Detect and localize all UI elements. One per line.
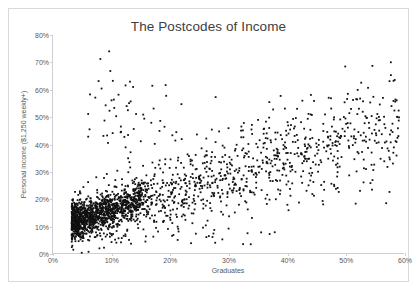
y-axis-tick-mark bbox=[50, 35, 53, 36]
y-axis-tick-mark bbox=[50, 199, 53, 200]
y-axis-title: Personal income ($1,250 weekly+) bbox=[18, 35, 30, 254]
x-axis-tick-mark bbox=[229, 253, 230, 256]
x-axis-tick-label: 20% bbox=[163, 257, 177, 264]
x-axis-tick-mark bbox=[53, 253, 54, 256]
y-axis-tick-mark bbox=[50, 172, 53, 173]
x-axis-tick-label: 50% bbox=[339, 257, 353, 264]
y-axis-tick-mark bbox=[50, 227, 53, 228]
y-axis-tick-label: 50% bbox=[35, 114, 49, 121]
y-axis-tick-mark bbox=[50, 62, 53, 63]
y-axis-tick-label: 70% bbox=[35, 59, 49, 66]
x-axis-tick-label: 0% bbox=[48, 257, 58, 264]
x-axis-tick-mark bbox=[288, 253, 289, 256]
x-axis-tick-mark bbox=[405, 253, 406, 256]
y-axis-tick-mark bbox=[50, 90, 53, 91]
plot-area: 0%10%20%30%40%50%60%70%80%0%10%20%30%40%… bbox=[52, 35, 404, 254]
x-axis-tick-label: 60% bbox=[398, 257, 412, 264]
y-axis-tick-label: 30% bbox=[35, 168, 49, 175]
x-axis-tick-mark bbox=[170, 253, 171, 256]
y-axis-tick-label: 40% bbox=[35, 141, 49, 148]
scatter-points bbox=[53, 35, 404, 253]
x-axis-tick-label: 40% bbox=[281, 257, 295, 264]
x-axis-tick-label: 30% bbox=[222, 257, 236, 264]
y-axis-tick-label: 20% bbox=[35, 196, 49, 203]
y-axis-tick-label: 10% bbox=[35, 223, 49, 230]
y-axis-tick-mark bbox=[50, 117, 53, 118]
x-axis-tick-mark bbox=[112, 253, 113, 256]
chart-title: The Postcodes of Income bbox=[9, 19, 408, 34]
chart-frame: The Postcodes of Income Personal income … bbox=[8, 8, 409, 282]
y-axis-tick-label: 60% bbox=[35, 86, 49, 93]
y-axis-tick-mark bbox=[50, 145, 53, 146]
x-axis-tick-mark bbox=[346, 253, 347, 256]
y-axis-title-label: Personal income ($1,250 weekly+) bbox=[21, 91, 28, 199]
y-axis-tick-label: 80% bbox=[35, 32, 49, 39]
x-axis-tick-label: 10% bbox=[105, 257, 119, 264]
x-axis-title: Graduates bbox=[52, 267, 404, 274]
